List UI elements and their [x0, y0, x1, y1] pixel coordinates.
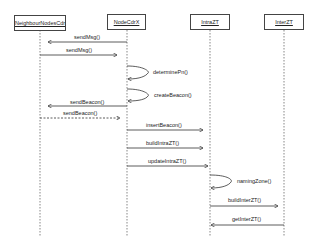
lifeline-box-interzt: InterZT — [264, 14, 304, 30]
message-label: insertBeacon() — [146, 123, 182, 129]
message-label: namingZone() — [237, 179, 271, 185]
message-label: sendMsg() — [66, 48, 92, 54]
message-label: getInterZT() — [232, 217, 261, 223]
message-label: buildIntraZT() — [146, 141, 179, 147]
message-label: sendMsg() — [74, 35, 100, 41]
lifeline-box-nodecdrx: NodeCdrX — [107, 14, 146, 30]
message-label: updateIntraZT() — [148, 159, 186, 165]
lifeline-box-neighbournodescdr: NeighbourNodesCdr — [14, 15, 66, 31]
message-label: sendBeacon() — [70, 100, 104, 106]
message-label: determinePn() — [153, 70, 188, 76]
message-label: sendBeacon() — [63, 111, 97, 117]
message-label: createBeacon() — [154, 93, 192, 99]
message-label: buildInterZT() — [228, 198, 261, 204]
lifeline-box-intrazt: IntraZT — [190, 14, 230, 30]
lifelines — [40, 30, 284, 236]
